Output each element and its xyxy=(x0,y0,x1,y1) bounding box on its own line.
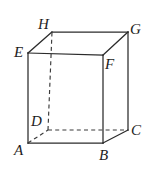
vertex-label-f: F xyxy=(105,57,114,72)
edge-e-f xyxy=(28,53,103,55)
vertex-label-d: D xyxy=(31,114,42,129)
edge-b-c xyxy=(103,130,128,143)
vertex-label-h: H xyxy=(38,17,49,32)
edge-g-f xyxy=(103,32,128,55)
hidden-edges-layer xyxy=(28,32,128,143)
vertex-label-c: C xyxy=(131,123,141,138)
vertex-label-e: E xyxy=(14,45,23,60)
edge-d-h xyxy=(48,32,52,130)
edge-e-h xyxy=(28,32,52,53)
cuboid-figure: ABCDEFGH xyxy=(0,0,150,169)
edge-a-d xyxy=(28,130,48,143)
vertex-label-a: A xyxy=(14,143,23,158)
edges-layer xyxy=(28,32,128,143)
vertex-label-b: B xyxy=(99,148,108,163)
vertex-label-g: G xyxy=(130,22,141,37)
